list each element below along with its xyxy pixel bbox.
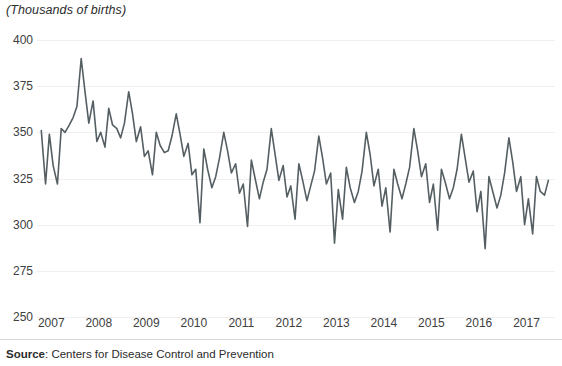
source-text: Centers for Disease Control and Preventi…	[51, 348, 273, 360]
chart-container: (Thousands of births) 250275300325350375…	[0, 0, 562, 366]
source-divider	[0, 339, 562, 340]
births-line-series	[0, 0, 562, 340]
plot-area: 250275300325350375400 200720082009201020…	[0, 0, 562, 340]
source-note: Source: Centers for Disease Control and …	[6, 348, 274, 360]
source-label: Source	[6, 348, 45, 360]
series-polyline	[41, 58, 548, 248]
